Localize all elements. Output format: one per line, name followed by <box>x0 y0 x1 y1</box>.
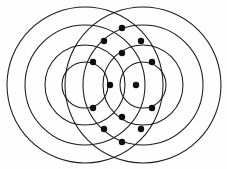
node-n-lower-right <box>138 126 144 132</box>
node-n-upper-mid <box>119 50 125 56</box>
node-n-bottom <box>119 139 125 145</box>
node-n-left-upper <box>90 59 96 65</box>
figure-root: Intersecting concentric circle families <box>0 0 227 169</box>
node-n-right-lower <box>149 105 155 111</box>
node-n-left-lower <box>90 105 96 111</box>
node-n-upper-right <box>138 38 144 44</box>
node-n-lower-mid <box>119 114 125 120</box>
node-n-top <box>119 25 125 31</box>
node-n-lower-left <box>101 126 107 132</box>
node-n-left-mid <box>107 82 113 88</box>
node-n-upper-left <box>101 38 107 44</box>
node-n-right-upper <box>149 59 155 65</box>
circle-diagram <box>0 0 227 169</box>
node-n-right-mid <box>133 82 139 88</box>
